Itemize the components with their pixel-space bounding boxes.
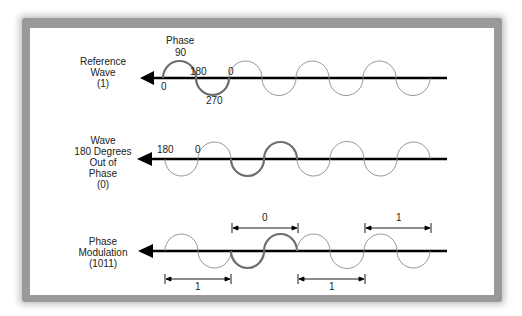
bit-bracket-1c [365, 223, 431, 233]
out-of-phase-row [137, 141, 447, 176]
phase-title: Phase [166, 36, 194, 46]
reference-wave-row [140, 61, 447, 96]
phase-label-0-start: 0 [161, 82, 167, 92]
bit-label-1: 1 [396, 213, 402, 223]
arrow-left-icon [137, 152, 152, 166]
row-label-out-of-phase: Wave 180 Degrees Out of Phase (0) [68, 135, 138, 190]
phase-label-90: 90 [175, 48, 186, 58]
bit-bracket-0 [232, 223, 298, 233]
arrow-left-icon [140, 71, 154, 85]
bit-label-0: 0 [262, 213, 268, 223]
bit-label-1: 1 [195, 282, 201, 292]
phase-label-180: 180 [157, 145, 174, 155]
row-label-reference-wave: Reference Wave (1) [68, 56, 138, 89]
bit-label-1: 1 [329, 282, 335, 292]
phase-label-270: 270 [206, 96, 223, 106]
arrow-left-icon [138, 244, 153, 258]
phase-modulation-row [138, 223, 447, 284]
phase-label-180: 180 [190, 67, 207, 77]
row-label-phase-modulation: Phase Modulation (1011) [68, 236, 138, 269]
phase-label-0: 0 [195, 145, 201, 155]
phase-label-0-end: 0 [228, 67, 234, 77]
